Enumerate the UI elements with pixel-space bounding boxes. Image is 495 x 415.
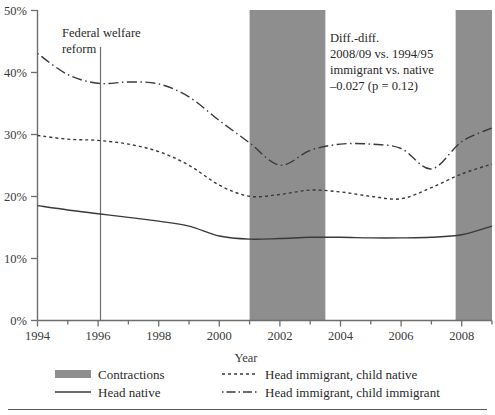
legend-label-contractions: Contractions: [98, 367, 164, 382]
y-tick-label: 50%: [4, 4, 27, 18]
y-tick-label: 10%: [4, 252, 27, 266]
y-tick-label: 20%: [4, 190, 27, 204]
x-tick-label: 2000: [207, 329, 232, 343]
x-tick-label: 2004: [328, 329, 354, 343]
chart-figure: 50% 40% 30% 20% 10% 0% 19941996199820002…: [0, 0, 495, 415]
y-tick-label: 30%: [4, 128, 27, 142]
y-tick-label: 40%: [4, 66, 27, 80]
x-tick-label: 2002: [267, 329, 292, 343]
annotation-line: Federal welfare: [62, 26, 141, 40]
legend-label-head-immigrant-child-native: Head immigrant, child native: [265, 367, 418, 382]
annotation-line: 2008/09 vs. 1994/95: [330, 47, 433, 61]
x-tick-label: 1996: [86, 329, 111, 343]
x-tick-label: 1998: [146, 329, 171, 343]
y-tick-label: 0%: [10, 314, 27, 328]
legend-label-head-native: Head native: [98, 385, 161, 400]
annotation-line: reform: [62, 42, 96, 56]
legend-label-head-immigrant-child-immigrant: Head immigrant, child immigrant: [265, 385, 440, 400]
annotation-line: immigrant vs. native: [330, 63, 434, 77]
x-tick-label: 2008: [449, 329, 474, 343]
x-tick-label: 1994: [25, 329, 51, 343]
contraction-band: [250, 10, 326, 321]
legend-swatch-contractions: [55, 370, 91, 378]
x-tick-label: 2006: [389, 329, 414, 343]
welfare-participation-line-chart: 50% 40% 30% 20% 10% 0% 19941996199820002…: [0, 0, 495, 415]
annotation-line: Diff.-diff.: [330, 31, 379, 45]
annotation-line: –0.027 (p = 0.12): [329, 79, 418, 93]
x-axis-title: Year: [234, 351, 258, 365]
